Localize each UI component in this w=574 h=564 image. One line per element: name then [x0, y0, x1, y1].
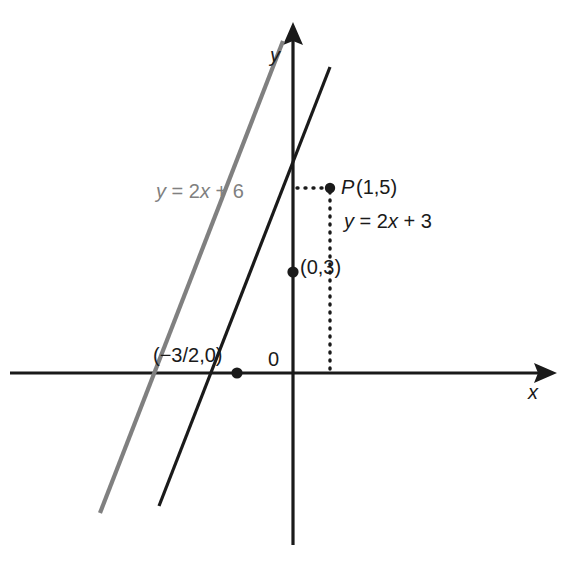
y-axis-label: y: [270, 45, 280, 65]
equation-label-gray: y = 2x + 6: [156, 181, 244, 201]
graph-canvas: [0, 0, 574, 564]
point-y-intercept-label: (0,3): [300, 257, 341, 277]
x-axis: [10, 363, 557, 383]
line-y-equals-2x-plus-6: [100, 41, 283, 513]
point-p: [325, 183, 335, 193]
point-x-intercept-label: (−3/2,0): [153, 345, 222, 365]
origin-label: 0: [268, 349, 279, 369]
x-axis-label: x: [528, 382, 538, 402]
y-axis: [283, 22, 303, 545]
equation-label-black: y = 2x + 3: [344, 211, 432, 231]
point-y-intercept: [287, 266, 298, 277]
point-p-label: P (1,5): [341, 177, 397, 197]
point-x-intercept: [231, 367, 242, 378]
line-y-equals-2x-plus-3: [159, 67, 330, 506]
coordinate-graph-figure: y x 0 y = 2x + 6 y = 2x + 3 P (1,5) (0,3…: [0, 0, 574, 564]
